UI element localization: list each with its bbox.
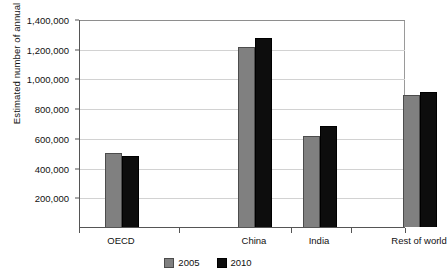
y-axis-tick-label: 600,000 (35, 133, 69, 144)
x-axis-label-oecd: OECD (107, 235, 134, 246)
x-axis-label-india: India (309, 235, 330, 246)
x-axis-tick-mark (179, 228, 180, 233)
y-axis-tick-label: 200,000 (35, 193, 69, 204)
y-axis-tick-label: 800,000 (35, 104, 69, 115)
y-axis-tick-label: 400,000 (35, 163, 69, 174)
x-axis-tick-mark (405, 228, 406, 233)
y-axis-tick-labels: 200,000400,000600,000800,0001,000,0001,2… (0, 20, 75, 228)
y-axis-tick-label: 1,200,000 (27, 44, 69, 55)
x-axis-tick-mark (291, 228, 292, 233)
bar-rest-of-world-2010[interactable] (420, 92, 437, 227)
legend-item-2010[interactable]: 2010 (217, 258, 252, 268)
legend-swatch-icon (217, 258, 227, 268)
bar-group (403, 20, 437, 227)
x-axis-label-china: China (242, 235, 267, 246)
legend-item-2005[interactable]: 2005 (164, 258, 199, 268)
bar-oecd-2005[interactable] (105, 153, 122, 227)
y-axis-tick-label: 1,400,000 (27, 15, 69, 26)
bar-rest-of-world-2005[interactable] (403, 95, 420, 227)
bar-group (238, 20, 272, 227)
legend-label: 2005 (178, 258, 199, 268)
legend-label: 2010 (231, 258, 252, 268)
bar-oecd-2010[interactable] (122, 156, 139, 227)
bars-layer (80, 20, 405, 227)
bar-india-2005[interactable] (303, 136, 320, 227)
bar-china-2005[interactable] (238, 47, 255, 227)
y-axis-tick-label: 1,000,000 (27, 74, 69, 85)
x-axis-label-rest-of-world: Rest of world (391, 235, 446, 246)
bar-group (105, 20, 139, 227)
bar-india-2010[interactable] (320, 126, 337, 227)
x-axis-tick-mark (79, 228, 80, 233)
x-axis-tick-mark (351, 228, 352, 233)
bar-china-2010[interactable] (255, 38, 272, 227)
legend-swatch-icon (164, 258, 174, 268)
chart-legend: 20052010 (0, 258, 416, 268)
bar-group (303, 20, 337, 227)
plot-area (79, 20, 405, 228)
